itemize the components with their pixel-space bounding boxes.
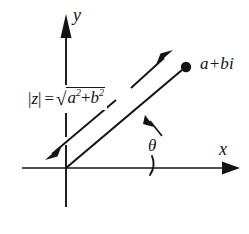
equals-sign: = [44,89,54,108]
arrow-pointer-icon [143,115,154,127]
plus-operator: + [81,88,91,107]
arrow-right-icon [222,162,240,175]
position-vector-line [66,70,182,168]
radical-sign-icon: √ [56,88,66,109]
square-root-expression: √a2+b2 [56,88,105,107]
arc-icon [150,156,154,175]
filled-dot-icon [181,62,191,72]
point-label-a-plus-bi: a+bi [200,55,234,72]
y-axis-label: y [73,6,81,24]
term-b: b [91,88,100,107]
diagram-canvas [0,0,249,234]
x-axis-label: x [219,140,227,158]
modulus-expression: |z| [28,89,41,108]
term-a: a [67,88,76,107]
angle-label-theta: θ [148,137,156,154]
modulus-formula: |z|=√a2+b2 [26,86,107,110]
radicand: a2+b2 [66,87,105,106]
argand-diagram-figure: y x θ a+bi |z|=√a2+b2 [0,0,249,234]
magnitude-arrow-head-lower [45,145,62,160]
arrow-up-icon [61,14,72,38]
angle-pointer-shaft [150,121,162,136]
magnitude-arrow-upper-shaft [131,58,164,88]
exponent-b: 2 [99,87,104,98]
modulus-bar-close: | [38,89,41,108]
